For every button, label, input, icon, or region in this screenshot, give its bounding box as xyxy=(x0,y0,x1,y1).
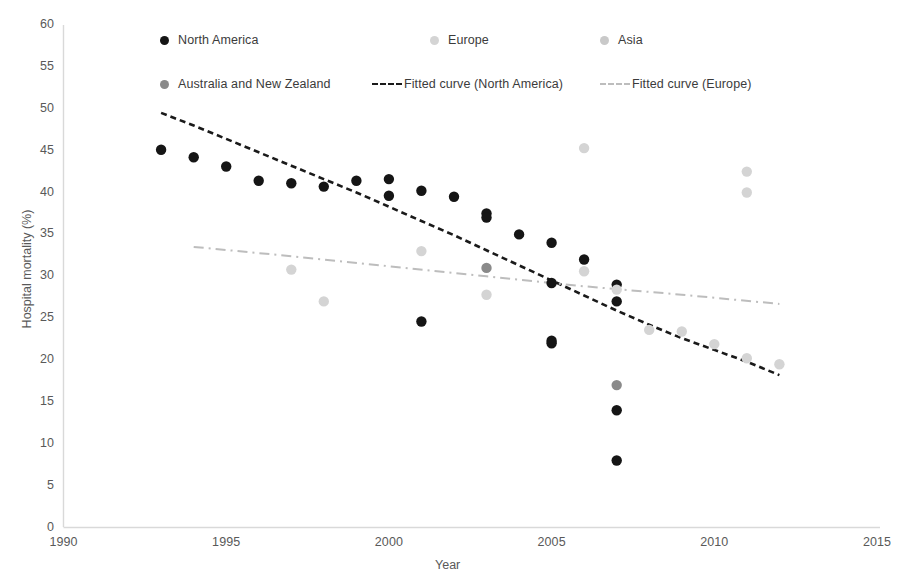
data-point xyxy=(156,145,166,155)
data-point xyxy=(546,278,556,288)
y-axis-title: Hospital mortality (%) xyxy=(20,209,34,329)
data-point xyxy=(286,264,296,274)
legend-marker-dot-icon xyxy=(430,36,439,45)
legend-label: Asia xyxy=(618,33,643,47)
fitted-curves-group xyxy=(161,113,779,375)
data-point xyxy=(612,405,622,415)
data-point xyxy=(319,181,329,191)
y-tick-5: 5 xyxy=(14,478,54,492)
data-point xyxy=(416,246,426,256)
data-points-group xyxy=(156,143,785,466)
data-point xyxy=(221,161,231,171)
data-point xyxy=(579,143,589,153)
data-point xyxy=(774,359,784,369)
data-point xyxy=(612,284,622,294)
data-point xyxy=(644,325,654,335)
data-point xyxy=(384,174,394,184)
y-tick-20: 20 xyxy=(14,352,54,366)
axis-lines xyxy=(64,25,881,528)
y-tick-45: 45 xyxy=(14,143,54,157)
y-tick-40: 40 xyxy=(14,185,54,199)
data-point xyxy=(351,176,361,186)
legend-item[interactable]: North America xyxy=(160,32,259,48)
data-point xyxy=(449,192,459,202)
y-tick-10: 10 xyxy=(14,436,54,450)
data-point xyxy=(189,152,199,162)
data-point xyxy=(612,455,622,465)
data-point xyxy=(286,178,296,188)
data-point xyxy=(481,212,491,222)
legend-marker-dot-icon xyxy=(600,36,609,45)
legend-line-icon xyxy=(372,83,402,85)
x-tick-2010: 2010 xyxy=(684,535,744,549)
legend-item[interactable]: Fitted curve (Europe) xyxy=(600,76,752,92)
legend-label: Fitted curve (North America) xyxy=(404,77,563,91)
data-point xyxy=(742,353,752,363)
y-tick-0: 0 xyxy=(14,520,54,534)
data-point xyxy=(579,254,589,264)
data-point xyxy=(481,263,491,273)
fit-curve xyxy=(161,113,779,375)
legend-label: Europe xyxy=(448,33,489,47)
data-point xyxy=(254,176,264,186)
legend-label: North America xyxy=(178,33,259,47)
data-point xyxy=(612,380,622,390)
legend-item[interactable]: Europe xyxy=(430,32,489,48)
legend-line-icon xyxy=(600,83,630,85)
data-point xyxy=(416,186,426,196)
data-point xyxy=(579,266,589,276)
y-tick-55: 55 xyxy=(14,59,54,73)
y-tick-60: 60 xyxy=(14,17,54,31)
data-point xyxy=(742,166,752,176)
x-tick-2005: 2005 xyxy=(522,535,582,549)
data-point xyxy=(514,229,524,239)
legend-marker-dot-icon xyxy=(160,80,169,89)
chart-container: 605550454035302520151050 199019952000200… xyxy=(0,0,914,585)
legend-item[interactable]: Fitted curve (North America) xyxy=(372,76,563,92)
y-tick-15: 15 xyxy=(14,394,54,408)
data-point xyxy=(546,238,556,248)
x-tick-1990: 1990 xyxy=(34,535,94,549)
legend-label: Fitted curve (Europe) xyxy=(632,77,752,91)
y-tick-50: 50 xyxy=(14,101,54,115)
data-point xyxy=(742,187,752,197)
data-point xyxy=(709,339,719,349)
data-point xyxy=(546,338,556,348)
data-point xyxy=(677,326,687,336)
x-axis-title: Year xyxy=(435,558,460,572)
legend-marker-dot-icon xyxy=(160,36,169,45)
legend-item[interactable]: Australia and New Zealand xyxy=(160,76,331,92)
legend-item[interactable]: Asia xyxy=(600,32,643,48)
data-point xyxy=(481,290,491,300)
data-point xyxy=(612,296,622,306)
x-tick-1995: 1995 xyxy=(196,535,256,549)
data-point xyxy=(416,316,426,326)
x-tick-2015: 2015 xyxy=(847,535,907,549)
data-point xyxy=(319,296,329,306)
legend-label: Australia and New Zealand xyxy=(178,77,331,91)
x-tick-2000: 2000 xyxy=(359,535,419,549)
data-point xyxy=(384,191,394,201)
